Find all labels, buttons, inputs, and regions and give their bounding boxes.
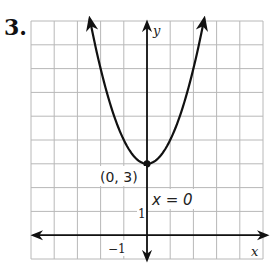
x-tick-label: −1 [108,242,126,256]
y-tick-label: 1 [138,207,146,221]
y-axis-label: y [152,23,161,38]
x-axis-label: x [251,244,259,259]
axes [33,22,267,260]
graph: (0, 3) x = 0 1 −1 y x [0,0,277,266]
vertex-label: (0, 3) [100,169,138,185]
axis-of-symmetry-label: x = 0 [151,191,193,209]
